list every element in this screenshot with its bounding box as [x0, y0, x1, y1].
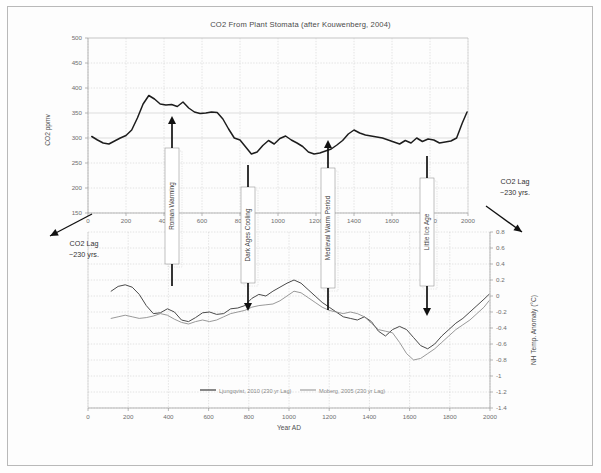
y2-tick-label: 0.2 [496, 276, 505, 283]
co2-lag-callout-left: CO2 Lag~230 yrs. [50, 214, 99, 259]
annotation-little-ice-age: Little Ice Age [420, 156, 437, 316]
ljungqvist-temp-curve [111, 280, 489, 349]
co2-lag-line2: ~230 yrs. [500, 188, 530, 197]
moberg-temp-curve [111, 291, 489, 360]
y2-tick-label: -1.4 [496, 404, 507, 411]
y-tick-label: 250 [72, 159, 83, 166]
temperature-series-group [111, 280, 489, 360]
annotation-label: Medieval Warm Period [324, 195, 331, 260]
legend-label: Ljungqvist, 2010 (230 yr Lag) [219, 388, 292, 394]
y-tick-label: 200 [72, 184, 83, 191]
bottom-x-tick-label: 1800 [443, 413, 457, 420]
chart-legend: Ljungqvist, 2010 (230 yr Lag)Moberg, 200… [200, 388, 385, 394]
y-axis-title: CO2 ppmv [44, 114, 52, 146]
bottom-x-tick-label: 2000 [483, 413, 497, 420]
annotation-label: Roman Warming [168, 182, 176, 230]
y2-tick-label: -0.2 [496, 308, 507, 315]
x-axis-title: Year AD [277, 424, 301, 431]
top-x-tick-label: 600 [197, 217, 208, 224]
bottom-x-tick-label: 1200 [322, 413, 336, 420]
annotation-label: Dark Ages Cooling [244, 208, 252, 261]
chart-canvas: 1502002503003504004505000200400600800100… [0, 0, 601, 473]
bottom-x-tick-label: 200 [123, 413, 134, 420]
y2-tick-label: -0.8 [496, 356, 507, 363]
bottom-x-tick-label: 800 [244, 413, 255, 420]
y-tick-label: 150 [72, 209, 83, 216]
co2-stomata-curve [92, 96, 467, 155]
legend-item: Ljungqvist, 2010 (230 yr Lag) [200, 388, 292, 394]
y2-tick-label: -1.2 [496, 388, 507, 395]
top-x-tick-label: 1000 [271, 217, 285, 224]
y2-tick-label: -0.4 [496, 324, 507, 331]
y2-tick-label: 0.8 [496, 228, 505, 235]
co2-lag-line1: CO2 Lag [501, 177, 530, 186]
top-x-tick-label: 200 [121, 217, 132, 224]
y-tick-label: 350 [72, 109, 83, 116]
bottom-x-tick-label: 1600 [403, 413, 417, 420]
top-x-tick-label: 1600 [385, 217, 399, 224]
top-x-tick-label: 0 [86, 217, 90, 224]
co2-series-group [92, 96, 467, 155]
y-tick-label: 500 [72, 34, 83, 41]
tick-labels-group: 1502002503003504004505000200400600800100… [72, 34, 508, 420]
y2-tick-label: -0.6 [496, 340, 507, 347]
y-tick-label: 300 [72, 134, 83, 141]
y2-tick-label: 0 [496, 292, 500, 299]
annotation-roman-warming: Roman Warming [165, 116, 182, 286]
legend-label: Moberg, 2005 (230 yr Lag) [319, 388, 385, 394]
y2-tick-label: -1 [496, 372, 502, 379]
y-tick-label: 400 [72, 84, 83, 91]
co2-lag-line2: ~230 yrs. [69, 250, 99, 259]
co2-lag-callout-right: CO2 Lag~230 yrs. [486, 177, 530, 232]
bottom-x-tick-label: 1400 [363, 413, 377, 420]
annotation-label: Little Ice Age [423, 213, 431, 250]
annotation-medieval-warm-period: Medieval Warm Period [321, 140, 338, 310]
bottom-x-tick-label: 600 [203, 413, 214, 420]
axis-titles-group: CO2 ppmvNH Temp. Anomaly (°C)Year AD [44, 114, 538, 431]
top-x-tick-label: 2000 [461, 217, 475, 224]
co2-lag-line1: CO2 Lag [70, 239, 99, 248]
bottom-x-tick-label: 1000 [282, 413, 296, 420]
top-plot-gridlines [88, 38, 468, 213]
y2-tick-label: 0.6 [496, 244, 505, 251]
legend-item: Moberg, 2005 (230 yr Lag) [300, 388, 385, 394]
y-tick-label: 450 [72, 59, 83, 66]
y2-axis-title: NH Temp. Anomaly (°C) [530, 295, 538, 365]
y2-tick-label: 0.4 [496, 260, 505, 267]
top-x-tick-label: 1400 [347, 217, 361, 224]
annotation-dark-ages-cooling: Dark Ages Cooling [241, 165, 258, 311]
bottom-x-tick-label: 0 [86, 413, 90, 420]
bottom-x-tick-label: 400 [163, 413, 174, 420]
figure-root: CO2 From Plant Stomata (after Kouwenberg… [0, 0, 601, 473]
